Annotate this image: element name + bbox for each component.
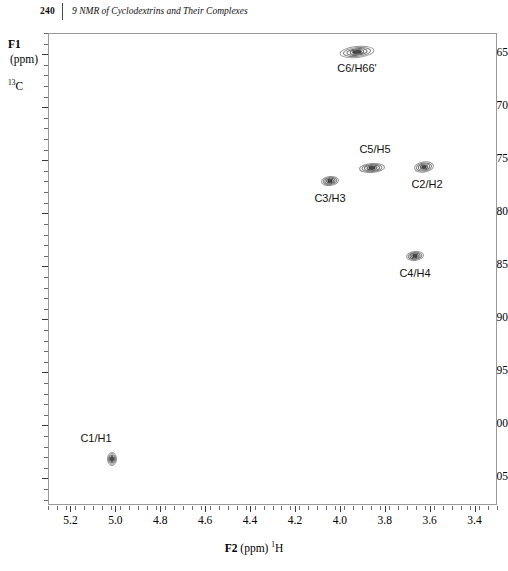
x-tick-minor [102, 506, 103, 510]
x-tick-minor [219, 506, 220, 510]
x-tick-minor [264, 506, 265, 510]
x-tick-minor [237, 506, 238, 510]
x-tick-minor [228, 506, 229, 510]
x-tick-minor [398, 506, 399, 510]
x-tick-5.2 [70, 506, 71, 512]
x-tick-4.6 [205, 506, 206, 512]
x-tick-minor [335, 506, 336, 510]
cross-peak-label: C6/H66' [337, 62, 376, 74]
x-tick-minor [461, 506, 462, 510]
x-tick-minor [434, 506, 435, 510]
cross-peak-label: C3/H3 [314, 192, 345, 204]
y-axis-nucleus-symbol: C [16, 80, 24, 92]
x-tick-minor [183, 506, 184, 510]
x-tick-minor [246, 506, 247, 510]
x-tick-minor [497, 506, 498, 510]
x-tick-label-4.8: 4.8 [140, 514, 180, 526]
x-tick-minor [416, 506, 417, 510]
page-header: 240 9 NMR of Cyclodextrins and Their Com… [0, 0, 508, 30]
cross-peak-label: C1/H1 [80, 432, 111, 444]
x-axis-nucleus-symbol: H [275, 542, 283, 554]
x-axis-title: F2 [225, 542, 238, 554]
x-tick-minor [299, 506, 300, 510]
x-tick-label-3.4: 3.4 [455, 514, 495, 526]
x-tick-minor [165, 506, 166, 510]
x-tick-minor [48, 506, 49, 510]
x-tick-minor [326, 506, 327, 510]
x-tick-minor [488, 506, 489, 510]
page-number: 240 [40, 6, 55, 16]
x-tick-label-5.2: 5.2 [50, 514, 90, 526]
x-tick-minor [138, 506, 139, 510]
y-axis-unit: (ppm) [10, 53, 38, 65]
x-tick-minor [255, 506, 256, 510]
x-tick-minor [470, 506, 471, 510]
x-tick-label-4.2: 4.2 [275, 514, 315, 526]
x-tick-3.6 [430, 506, 431, 512]
x-tick-minor [156, 506, 157, 510]
x-tick-minor [452, 506, 453, 510]
cross-peak-label: C5/H5 [359, 143, 390, 155]
x-tick-minor [147, 506, 148, 510]
cross-peak-label: C2/H2 [411, 178, 442, 190]
chapter-title: 9 NMR of Cyclodextrins and Their Complex… [72, 6, 248, 16]
x-tick-3.8 [385, 506, 386, 512]
x-tick-minor [273, 506, 274, 510]
x-tick-label-4.6: 4.6 [185, 514, 225, 526]
x-tick-4.2 [295, 506, 296, 512]
x-tick-label-3.6: 3.6 [410, 514, 450, 526]
x-tick-minor [380, 506, 381, 510]
x-tick-label-4.4: 4.4 [230, 514, 270, 526]
x-tick-minor [362, 506, 363, 510]
x-tick-minor [201, 506, 202, 510]
x-tick-minor [344, 506, 345, 510]
x-tick-minor [129, 506, 130, 510]
x-tick-minor [111, 506, 112, 510]
x-tick-4.4 [250, 506, 251, 512]
cross-peak-label: C4/H4 [399, 267, 430, 279]
x-tick-minor [407, 506, 408, 510]
x-tick-minor [425, 506, 426, 510]
x-tick-minor [290, 506, 291, 510]
x-tick-label-4.0: 4.0 [320, 514, 360, 526]
x-tick-minor [317, 506, 318, 510]
x-tick-minor [210, 506, 211, 510]
x-tick-minor [389, 506, 390, 510]
y-axis-title: F1 [8, 38, 21, 50]
x-tick-label-5.0: 5.0 [95, 514, 135, 526]
x-tick-minor [353, 506, 354, 510]
x-tick-5.0 [115, 506, 116, 512]
x-tick-4.0 [340, 506, 341, 512]
y-axis-nucleus: 13C [8, 78, 23, 92]
y-axis-nucleus-mass: 13 [8, 78, 16, 87]
x-tick-minor [174, 506, 175, 510]
x-tick-label-3.8: 3.8 [365, 514, 405, 526]
x-tick-minor [84, 506, 85, 510]
x-tick-3.4 [475, 506, 476, 512]
x-tick-minor [443, 506, 444, 510]
header-divider [62, 3, 63, 20]
x-tick-minor [93, 506, 94, 510]
x-axis-unit: (ppm) [240, 542, 268, 554]
x-axis-label: F2 (ppm) 1H [0, 540, 508, 554]
x-tick-minor [281, 506, 282, 510]
x-tick-4.8 [160, 506, 161, 512]
x-tick-minor [75, 506, 76, 510]
x-tick-minor [66, 506, 67, 510]
x-tick-minor [308, 506, 309, 510]
x-tick-minor [57, 506, 58, 510]
x-tick-minor [371, 506, 372, 510]
x-tick-minor [120, 506, 121, 510]
x-tick-minor [479, 506, 480, 510]
x-tick-minor [192, 506, 193, 510]
x-axis-nucleus: 1H [271, 542, 283, 554]
